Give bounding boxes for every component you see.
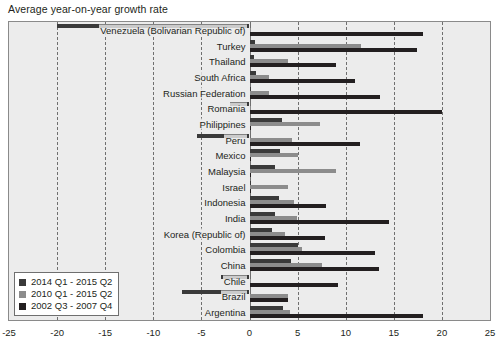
category-label: India — [224, 213, 247, 224]
bar-group: Indonesia — [9, 195, 490, 211]
bar — [250, 185, 288, 189]
category-label: Korea (Republic of) — [163, 228, 247, 239]
bar-group: Mexico — [9, 147, 490, 163]
bar-group: Peru — [9, 132, 490, 148]
bar — [250, 32, 423, 36]
category-label: Russian Federation — [162, 87, 246, 98]
legend-swatch-icon — [19, 291, 26, 298]
legend-swatch-icon — [19, 303, 26, 310]
bar — [250, 153, 298, 157]
legend-item: 2014 Q1 - 2015 Q2 — [19, 276, 112, 288]
bar-group: Colombia — [9, 242, 490, 258]
category-label: Chile — [223, 275, 247, 286]
bar — [250, 251, 375, 255]
bar — [250, 142, 361, 146]
category-label: Brazil — [221, 291, 247, 302]
bar — [250, 110, 442, 114]
category-label: Israel — [221, 181, 246, 192]
bar-group: Korea (Republic of) — [9, 226, 490, 242]
category-label: Peru — [224, 134, 246, 145]
x-tick-label: 20 — [437, 327, 448, 338]
bar — [250, 122, 320, 126]
bar-group: Venezuela (Bolivarian Republic of) — [9, 22, 490, 38]
category-label: Turkey — [216, 40, 247, 51]
bar-group: China — [9, 257, 490, 273]
bar — [250, 63, 337, 67]
bar-group: Thailand — [9, 53, 490, 69]
x-tick-label: -25 — [2, 327, 16, 338]
category-label: Argentina — [204, 307, 247, 318]
category-label: China — [220, 260, 247, 271]
bar — [250, 189, 251, 193]
bar — [250, 79, 356, 83]
legend-item: 2002 Q3 - 2007 Q4 — [19, 300, 112, 312]
category-label: Mexico — [214, 150, 246, 161]
x-tick-label: 0 — [247, 327, 252, 338]
bar — [250, 157, 252, 161]
x-tick-label: -5 — [197, 327, 205, 338]
category-label: Thailand — [208, 56, 246, 67]
category-label: Indonesia — [203, 197, 246, 208]
x-tick-label: -10 — [146, 327, 160, 338]
bar — [250, 48, 417, 52]
legend-item: 2010 Q1 - 2015 Q2 — [19, 288, 112, 300]
category-label: Philippines — [199, 118, 247, 129]
bar — [250, 283, 339, 287]
bar-group: Romania — [9, 100, 490, 116]
x-tick-label: 10 — [340, 327, 351, 338]
bar — [250, 314, 423, 318]
category-label: Romania — [206, 103, 246, 114]
bar — [250, 267, 380, 271]
x-tick-label: 5 — [295, 327, 300, 338]
chart-legend: 2014 Q1 - 2015 Q22010 Q1 - 2015 Q22002 Q… — [14, 272, 119, 316]
bar — [250, 236, 325, 240]
legend-label: 2014 Q1 - 2015 Q2 — [31, 276, 112, 288]
chart-figure: Average year-on-year growth rate Venezue… — [0, 0, 499, 353]
bar-group: Russian Federation — [9, 85, 490, 101]
bar-group: India — [9, 210, 490, 226]
bar-group: South Africa — [9, 69, 490, 85]
category-label: South Africa — [193, 71, 246, 82]
bar — [250, 204, 327, 208]
bar-group: Turkey — [9, 38, 490, 54]
x-tick-label: 15 — [389, 327, 400, 338]
x-tick-label: 25 — [485, 327, 496, 338]
legend-label: 2010 Q1 - 2015 Q2 — [31, 288, 112, 300]
bar-group: Philippines — [9, 116, 490, 132]
category-label: Malaysia — [207, 165, 247, 176]
category-label: Colombia — [204, 244, 246, 255]
bar — [250, 169, 337, 173]
legend-swatch-icon — [19, 279, 26, 286]
bar-group: Malaysia — [9, 163, 490, 179]
x-tick-label: -15 — [98, 327, 112, 338]
bar — [250, 173, 251, 177]
category-label: Venezuela (Bolivarian Republic of) — [99, 24, 246, 35]
x-axis: -25-20-15-10-50510152025 — [8, 322, 491, 346]
bar-group: Israel — [9, 179, 490, 195]
bar — [250, 220, 389, 224]
bar — [250, 95, 381, 99]
x-tick-label: -20 — [50, 327, 64, 338]
bar — [250, 298, 288, 302]
bar — [250, 126, 251, 130]
chart-title: Average year-on-year growth rate — [8, 3, 168, 15]
legend-label: 2002 Q3 - 2007 Q4 — [31, 300, 112, 312]
